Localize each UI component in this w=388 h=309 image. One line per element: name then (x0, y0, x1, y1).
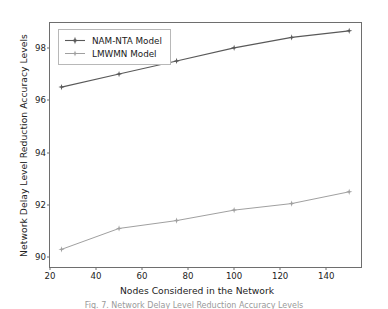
x-tick-mark (280, 267, 281, 270)
data-point-marker (346, 189, 352, 195)
legend-label-nam-nta: NAM-NTA Model (92, 36, 162, 46)
x-tick-label: 140 (318, 271, 334, 281)
x-tick-mark (142, 267, 143, 270)
data-point-marker (58, 84, 64, 90)
x-tick-label: 120 (272, 271, 288, 281)
y-tick-mark (47, 257, 50, 258)
legend-line-marker-icon (64, 48, 86, 59)
y-tick-mark (47, 204, 50, 205)
y-tick-mark (47, 47, 50, 48)
x-tick-label: 100 (226, 271, 242, 281)
data-point-marker (231, 45, 237, 51)
x-tick-mark (96, 267, 97, 270)
x-tick-mark (326, 267, 327, 270)
y-tick-mark (47, 152, 50, 153)
data-point-marker (289, 34, 295, 40)
data-point-marker (116, 71, 122, 77)
x-tick-label: 80 (183, 271, 194, 281)
data-point-marker (346, 28, 352, 34)
figure-caption: Fig. 7. Network Delay Level Reduction Ac… (0, 301, 388, 309)
x-tick-label: 20 (45, 271, 56, 281)
legend-label-lmwmn: LMWMN Model (92, 49, 157, 59)
y-tick-label: 94 (35, 148, 46, 158)
data-point-marker (173, 217, 179, 223)
legend-item-nam-nta: NAM-NTA Model (64, 34, 162, 47)
y-tick-label: 92 (35, 200, 46, 210)
legend-item-lmwmn: LMWMN Model (64, 47, 162, 60)
x-tick-mark (188, 267, 189, 270)
data-point-marker (116, 225, 122, 231)
x-tick-label: 40 (91, 271, 102, 281)
legend-line-marker-icon (64, 35, 86, 46)
y-tick-label: 98 (35, 43, 46, 53)
x-tick-mark (50, 267, 51, 270)
chart-legend: NAM-NTA Model LMWMN Model (58, 29, 171, 65)
data-point-marker (289, 200, 295, 206)
data-point-marker (231, 207, 237, 213)
y-tick-mark (47, 100, 50, 101)
plot-area: 9092949698 20406080100120140 NAM-NTA Mod… (49, 22, 362, 268)
x-tick-label: 60 (137, 271, 148, 281)
data-point-marker (58, 246, 64, 252)
series-line-2 (62, 192, 350, 250)
y-tick-label: 96 (35, 95, 46, 105)
y-tick-label: 90 (35, 252, 46, 262)
data-point-marker (173, 58, 179, 64)
x-axis-title: Nodes Considered in the Network (49, 285, 345, 296)
y-axis-title: Network Delay Level Reduction Accuracy L… (18, 21, 29, 271)
x-tick-mark (234, 267, 235, 270)
figure-container: Network Delay Level Reduction Accuracy L… (0, 0, 388, 309)
